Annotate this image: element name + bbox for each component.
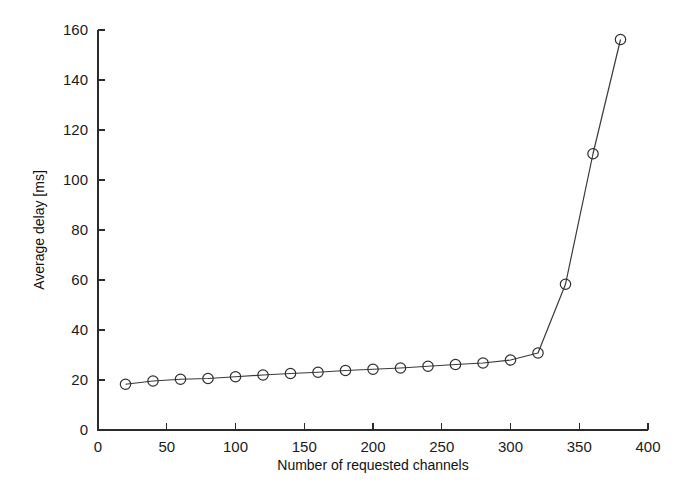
data-point-marker xyxy=(615,34,625,44)
data-point-marker xyxy=(285,368,295,378)
data-point-marker xyxy=(450,359,460,369)
x-tick-label: 100 xyxy=(223,438,248,455)
data-point-marker xyxy=(313,367,323,377)
y-axis-tick-labels: 020406080100120140160 xyxy=(63,21,88,438)
x-axis-tick-labels: 050100150200250300350400 xyxy=(94,438,661,455)
y-tick-label: 100 xyxy=(63,171,88,188)
data-point-marker xyxy=(505,355,515,365)
x-tick-label: 400 xyxy=(635,438,660,455)
x-tick-label: 50 xyxy=(158,438,175,455)
x-tick-label: 300 xyxy=(498,438,523,455)
x-tick-label: 150 xyxy=(292,438,317,455)
series-line-average-delay xyxy=(126,40,621,385)
y-axis-title: Average delay [ms] xyxy=(31,170,47,290)
data-point-marker xyxy=(120,379,130,389)
data-point-marker xyxy=(258,370,268,380)
data-point-marker xyxy=(148,376,158,386)
x-tick-label: 350 xyxy=(567,438,592,455)
data-point-marker xyxy=(533,348,543,358)
chart-figure: 020406080100120140160 050100150200250300… xyxy=(0,0,688,491)
data-point-marker xyxy=(560,279,570,289)
y-axis-ticks xyxy=(98,30,105,430)
data-point-marker xyxy=(588,149,598,159)
data-point-marker xyxy=(340,365,350,375)
y-tick-label: 80 xyxy=(71,221,88,238)
x-tick-label: 0 xyxy=(94,438,102,455)
y-tick-label: 20 xyxy=(71,371,88,388)
data-point-marker xyxy=(175,374,185,384)
x-axis-ticks xyxy=(98,423,648,430)
data-point-marker xyxy=(230,372,240,382)
data-point-marker xyxy=(368,364,378,374)
y-tick-label: 140 xyxy=(63,71,88,88)
x-tick-label: 200 xyxy=(360,438,385,455)
y-tick-label: 40 xyxy=(71,321,88,338)
x-axis-title: Number of requested channels xyxy=(277,457,468,473)
y-tick-label: 0 xyxy=(80,421,88,438)
data-point-marker xyxy=(203,373,213,383)
line-chart: 020406080100120140160 050100150200250300… xyxy=(0,0,688,491)
data-point-marker xyxy=(395,363,405,373)
data-point-marker xyxy=(423,361,433,371)
y-tick-label: 160 xyxy=(63,21,88,38)
y-tick-label: 60 xyxy=(71,271,88,288)
y-tick-label: 120 xyxy=(63,121,88,138)
data-point-marker xyxy=(478,358,488,368)
x-tick-label: 250 xyxy=(429,438,454,455)
series-markers xyxy=(120,34,625,389)
